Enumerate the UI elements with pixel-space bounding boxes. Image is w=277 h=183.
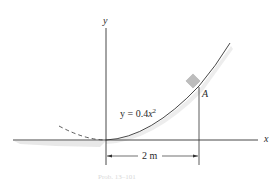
diagram-canvas: y x y = 0.4x2 A 2 m Prob. 13–101 (0, 0, 277, 183)
figure-caption: Prob. 13–101 (98, 174, 136, 181)
ground-shadow (14, 141, 106, 147)
x-axis-label: x (264, 134, 268, 144)
diagram-graphics (0, 0, 277, 183)
curve-shadow (106, 46, 233, 144)
equation-exponent: 2 (153, 107, 157, 115)
parabola-dashed-extension (59, 126, 106, 140)
dimension-label: 2 m (142, 151, 157, 161)
equation-prefix: y = 0.4 (120, 108, 148, 119)
arrow-right-icon (193, 154, 198, 157)
y-axis-label: y (103, 16, 107, 26)
block-icon (186, 74, 200, 88)
curve-equation-label: y = 0.4x2 (120, 108, 156, 119)
parabola-curve (106, 43, 230, 140)
arrow-left-icon (107, 154, 112, 157)
point-a-label: A (202, 89, 208, 99)
